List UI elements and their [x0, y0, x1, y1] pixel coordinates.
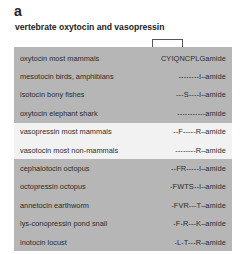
group-oxytocin-family: oxytocin most mammals CYIQNCPLGamide mes…	[14, 47, 232, 123]
table-row: lys-conopressin pond snail -F-R---K–amid…	[14, 215, 232, 233]
peptide-name: vasopressin most mammals	[20, 127, 112, 136]
peptide-name: lys-conopressin pond snail	[20, 219, 107, 228]
table-row: cephalotocin octopus --FR-----I–amide	[14, 159, 232, 177]
peptide-name: mesotocin birds, amphibians	[20, 72, 114, 81]
peptide-sequence: --FR-----I–amide	[171, 164, 226, 173]
peptide-sequence: CYIQNCPLGamide	[161, 54, 226, 63]
table-row: octopressin octopus -FWTS--I–amide	[14, 178, 232, 196]
peptide-name: oxytocin most mammals	[20, 54, 99, 63]
peptide-sequence: -----------amide	[177, 109, 226, 118]
peptide-sequence: ---S----I–amide	[176, 90, 226, 99]
peptide-name: cephalotocin octopus	[20, 164, 89, 173]
table-row: annetocin earthworm -FVR---T–amide	[14, 196, 232, 214]
peptide-name: inotocin locust	[20, 238, 67, 247]
peptide-name: vasotocin most non-mammals	[20, 146, 118, 155]
peptide-name: oxytocin elephant shark	[20, 109, 98, 118]
peptide-name: octopressin octopus	[20, 182, 86, 191]
table-row: oxytocin elephant shark -----------amide	[14, 104, 232, 122]
table-row: vasotocin most non-mammals --------R–ami…	[14, 141, 232, 159]
disulfide-bridge-bracket	[152, 39, 183, 47]
group-invertebrate-family: cephalotocin octopus --FR-----I–amide oc…	[14, 159, 232, 251]
peptide-sequence: --------I–amide	[179, 72, 226, 81]
group-vasopressin-family: vasopressin most mammals --F-----R–amide…	[14, 123, 232, 160]
panel-letter: a	[14, 3, 22, 19]
table-row: vasopressin most mammals --F-----R–amide	[14, 123, 232, 141]
table-row: isotocin bony fishes ---S----I–amide	[14, 86, 232, 104]
peptide-sequence: -FVR---T–amide	[171, 201, 226, 210]
peptide-sequence: -F-R---K–amide	[173, 219, 226, 228]
peptide-sequence: --------R–amide	[175, 146, 226, 155]
sequence-table: oxytocin most mammals CYIQNCPLGamide mes…	[14, 47, 232, 251]
peptide-sequence: -FWTS--I–amide	[170, 182, 226, 191]
peptide-sequence: --F-----R–amide	[173, 127, 226, 136]
figure-title: vertebrate oxytocin and vasopressin	[15, 22, 165, 32]
table-row: inotocin locust -L-T---R–amide	[14, 233, 232, 251]
table-row: oxytocin most mammals CYIQNCPLGamide	[14, 47, 232, 67]
peptide-sequence: -L-T---R–amide	[175, 238, 227, 247]
table-row: mesotocin birds, amphibians --------I–am…	[14, 67, 232, 85]
peptide-name: annetocin earthworm	[20, 201, 89, 210]
peptide-name: isotocin bony fishes	[20, 90, 85, 99]
